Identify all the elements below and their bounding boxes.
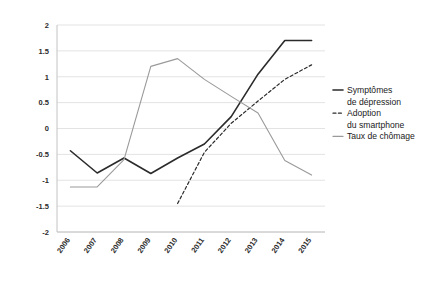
legend-label-continued: de dépression: [347, 97, 401, 107]
y-tick-label: -1: [42, 176, 49, 185]
legend-label: Symptômes: [347, 85, 392, 95]
chart-legend: Symptômesde dépressionAdoptiondu smartph…: [333, 85, 415, 141]
data-series-group: [70, 41, 311, 204]
x-tick-label: 2011: [189, 236, 206, 254]
series-line: [70, 41, 311, 174]
legend-label: Taux de chômage: [347, 131, 415, 141]
x-tick-label: 2009: [135, 236, 152, 255]
legend-label-continued: du smartphone: [347, 120, 405, 130]
x-tick-label: 2007: [82, 236, 99, 255]
y-tick-label: 0.5: [39, 98, 49, 107]
y-tick-labels-group: 21.510.50-0.5-1-1.5-2: [36, 21, 49, 237]
x-tick-label: 2014: [269, 235, 286, 255]
x-tick-label: 2008: [109, 236, 126, 255]
x-tick-label: 2010: [162, 236, 179, 255]
x-tick-label: 2012: [216, 236, 233, 255]
y-tick-label: 0: [45, 124, 49, 133]
y-tick-label: -2: [42, 228, 49, 237]
x-tick-label: 2006: [55, 236, 72, 255]
line-chart-svg: 21.510.50-0.5-1-1.5-2 200620072008200920…: [0, 0, 446, 292]
y-tick-label: -1.5: [36, 202, 49, 211]
y-tick-label: 1.5: [39, 47, 49, 56]
y-tick-label: 1: [45, 73, 49, 82]
x-tick-label: 2013: [243, 236, 260, 255]
legend-label: Adoption: [347, 108, 381, 118]
chart-figure: 21.510.50-0.5-1-1.5-2 200620072008200920…: [0, 0, 446, 292]
y-tick-label: 2: [45, 21, 49, 30]
x-tick-labels-group: 2006200720082009201020112012201320142015: [55, 235, 313, 255]
x-tick-label: 2015: [296, 236, 313, 255]
gridlines-group: [57, 25, 325, 232]
y-tick-label: -0.5: [36, 150, 49, 159]
series-line: [178, 65, 312, 204]
